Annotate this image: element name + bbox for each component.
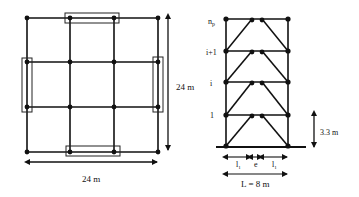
brace [226, 19, 252, 51]
plan-nodes [25, 16, 161, 155]
floor-label-1: 1 [210, 111, 214, 120]
brace [226, 82, 252, 115]
plan-width-label: 24 m [82, 174, 100, 184]
brace [226, 115, 252, 146]
plan-dimensions [29, 18, 168, 162]
brace [262, 19, 288, 51]
structure-diagram: 24 m 24 m np i+1 i 1 3.3 m [0, 0, 359, 197]
segment-label-l1-left: l1 [236, 160, 241, 170]
brace [262, 82, 288, 115]
floor-label-np: np [208, 17, 215, 27]
plan-braced-bays [22, 13, 163, 156]
floor-label-i-plus-1: i+1 [206, 48, 217, 57]
brace [262, 115, 288, 146]
plan-view [27, 18, 158, 152]
floor-label-i: i [210, 79, 213, 88]
brace [262, 51, 288, 82]
segment-label-e: e [254, 160, 258, 169]
span-label: L = 8 m [241, 179, 270, 189]
storey-height-label: 3.3 m [320, 128, 339, 137]
segment-label-l1-right: l1 [272, 160, 277, 170]
brace [226, 51, 252, 82]
plan-height-label: 24 m [176, 82, 194, 92]
